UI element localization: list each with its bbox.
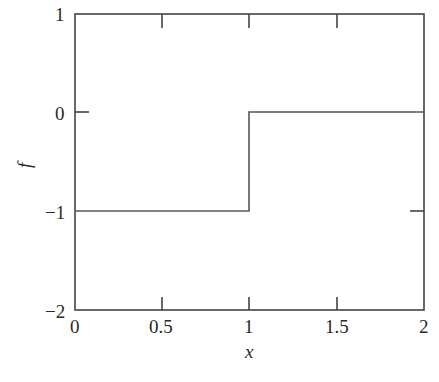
chart: 1 0 −1 −2 0 0.5 1 1.5 2 x f [0,0,439,382]
y-tick-label-neg1: −1 [45,202,65,223]
step-function-line [75,112,424,211]
x-ticks-top [162,14,337,28]
y-axis-label: f [14,160,35,168]
x-tick-label-0.5: 0.5 [149,316,173,337]
x-tick-label-0: 0 [70,316,80,337]
y-tick-label-neg2: −2 [45,301,65,322]
x-ticks-bottom [162,297,337,310]
x-tick-label-1.5: 1.5 [325,316,349,337]
x-tick-label-1: 1 [244,316,254,337]
y-tick-label-0: 0 [55,103,65,124]
y-tick-label-1: 1 [55,4,65,25]
x-axis-label: x [244,341,254,362]
x-tick-label-2: 2 [419,316,429,337]
